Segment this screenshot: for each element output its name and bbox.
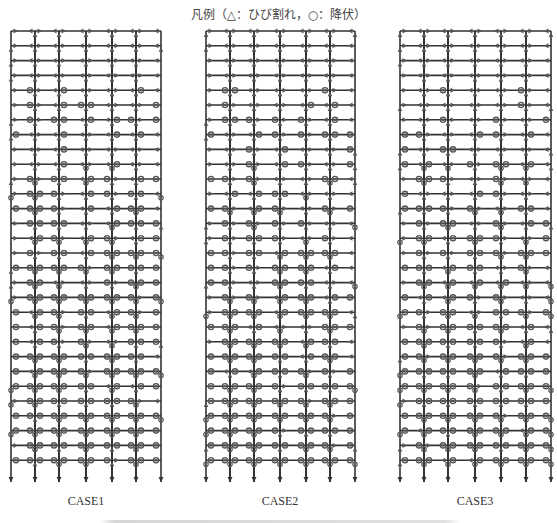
case2-label: CASE2 [262,494,299,509]
case3-label: CASE3 [457,494,494,509]
frame-diagrams [0,0,557,523]
frame-case2 [204,29,358,483]
frame-case3 [398,29,554,483]
frame-case1 [9,29,164,483]
figure-caption-clipped [100,513,460,523]
case1-label: CASE1 [68,494,105,509]
